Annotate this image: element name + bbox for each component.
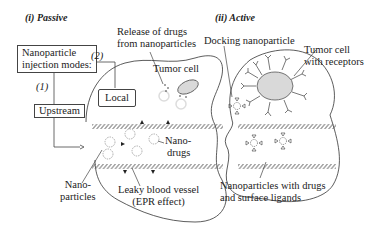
release-line1: Release of drugs [117,26,196,38]
local-box: Local [98,89,136,107]
active-title: (ii) Active [215,12,255,24]
active-tumor-cell-icon [241,55,307,116]
tumor-receptors-line1: Tumor cell [304,44,364,56]
mode-2-label: (2) [91,50,103,62]
passive-nanoparticles [103,129,159,159]
passive-tumor-cell-icon [175,77,200,97]
nanoparticles-line1: Nano- [60,179,96,191]
release-label: Release of drugs from nanoparticles [117,26,196,50]
tumor-receptors-label: Tumor cell with receptors [304,44,364,68]
injection-line2: injection modes: [22,59,92,71]
injection-modes-box: Nanoparticle injection modes: [17,45,97,73]
docking-pointer [224,46,232,97]
docking-label: Docking nanoparticle [204,35,295,47]
vessel-line1: Leaky blood vessel [118,184,199,196]
vessel-line2: (EPR effect) [118,196,199,208]
nano-drugs-line1: Nano- [165,135,191,147]
upstream-box: Upstream [34,104,85,118]
tumor-receptors-line2: with receptors [304,56,364,68]
mode-1-label: (1) [36,81,48,93]
release-line2: from nanoparticles [117,38,196,50]
injection-line1: Nanoparticle [22,47,92,59]
nanoparticles-line2: particles [60,191,96,203]
ligands-label: Nanoparticles with drugs and surface lig… [220,180,326,204]
nano-drugs-label: Nano- drugs [165,135,191,159]
passive-title: (i) Passive [25,12,68,24]
nano-drugs-line2: drugs [165,147,191,159]
ligands-line2: and surface ligands [220,192,326,204]
vessel-label: Leaky blood vessel (EPR effect) [118,184,199,208]
ligands-line1: Nanoparticles with drugs [220,180,326,192]
nanoparticles-label: Nano- particles [60,179,96,203]
tumor-cell-label: Tumor cell [153,63,199,75]
